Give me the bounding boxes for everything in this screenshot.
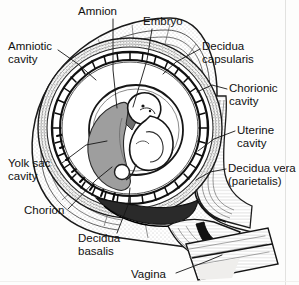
label-embryo: Embryo bbox=[143, 15, 183, 28]
label-decidua-capsularis: Decidua capsularis bbox=[202, 40, 254, 65]
cervix-and-vagina bbox=[168, 219, 280, 280]
label-amnion: Amnion bbox=[78, 5, 117, 18]
label-yolk-sac-cavity: Yolk sac cavity bbox=[8, 157, 50, 182]
label-chorion: Chorion bbox=[24, 204, 64, 217]
scan-edge-right bbox=[285, 0, 286, 285]
scan-edge-bottom bbox=[0, 281, 299, 282]
label-uterine-cavity: Uterine cavity bbox=[237, 124, 274, 149]
anatomical-figure: Amnion Embryo Amniotic cavity Decidua ca… bbox=[0, 0, 299, 285]
label-chorionic-cavity: Chorionic cavity bbox=[229, 82, 278, 107]
label-vagina: Vagina bbox=[131, 268, 166, 281]
label-decidua-basalis: Decidua basalis bbox=[78, 232, 120, 257]
label-amniotic-cavity: Amniotic cavity bbox=[8, 40, 52, 65]
